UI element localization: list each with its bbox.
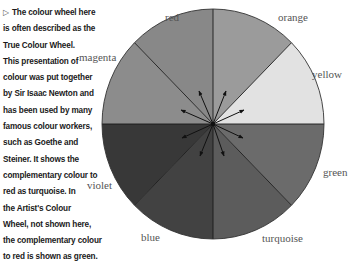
- label-magenta: magenta: [79, 51, 116, 63]
- label-green: green: [323, 166, 348, 178]
- caption-line-16: to red is shown as green.: [3, 249, 103, 265]
- label-yellow: yellow: [312, 68, 342, 80]
- label-turquoise: turquoise: [262, 232, 303, 244]
- center-dot: [211, 122, 215, 126]
- label-blue: blue: [141, 231, 160, 243]
- label-red: red: [165, 11, 180, 23]
- label-orange: orange: [278, 11, 308, 23]
- label-violet: violet: [87, 179, 112, 191]
